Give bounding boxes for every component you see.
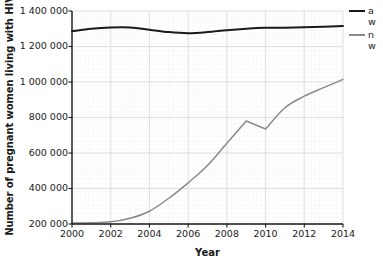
- legend-item-label: aw: [368, 5, 383, 27]
- legend-item-receiving-antiretrovirals: nw: [349, 29, 383, 51]
- x-tick-label: 2006: [176, 228, 200, 239]
- y-axis-title-text: Number of pregnant women living with HIV: [4, 0, 15, 235]
- x-tick-label: 2008: [215, 228, 239, 239]
- y-tick-label: 1 400 000: [16, 5, 68, 16]
- y-tick-label: 1 200 000: [16, 40, 68, 51]
- legend-swatch-black-line-icon: [349, 10, 365, 12]
- x-tick-label: 2004: [137, 228, 161, 239]
- legend-swatch-gray-line-icon: [349, 34, 365, 36]
- chart-legend: aw nw: [349, 5, 383, 53]
- x-tick-label: 2012: [292, 228, 316, 239]
- y-tick-label: 400 000: [16, 182, 68, 193]
- y-tick-label: 1 000 000: [16, 76, 68, 87]
- x-tick-label: 2002: [99, 228, 123, 239]
- legend-item-label: nw: [368, 29, 383, 51]
- y-tick-label: 600 000: [16, 147, 68, 158]
- x-tick-label: 2000: [60, 228, 84, 239]
- x-axis-tick-labels: 20002002200420062008201020122014: [0, 228, 383, 244]
- chart-figure: Number of pregnant women living with HIV…: [0, 0, 383, 265]
- legend-item-all-pregnant-women: aw: [349, 5, 383, 27]
- x-tick-label: 2014: [331, 228, 355, 239]
- y-tick-label: 800 000: [16, 111, 68, 122]
- y-tick-label: 200 000: [16, 218, 68, 229]
- x-axis-title: Year: [72, 247, 343, 258]
- y-axis-tick-labels: 200 000400 000600 000800 0001 000 0001 2…: [16, 0, 68, 265]
- x-tick-label: 2010: [253, 228, 277, 239]
